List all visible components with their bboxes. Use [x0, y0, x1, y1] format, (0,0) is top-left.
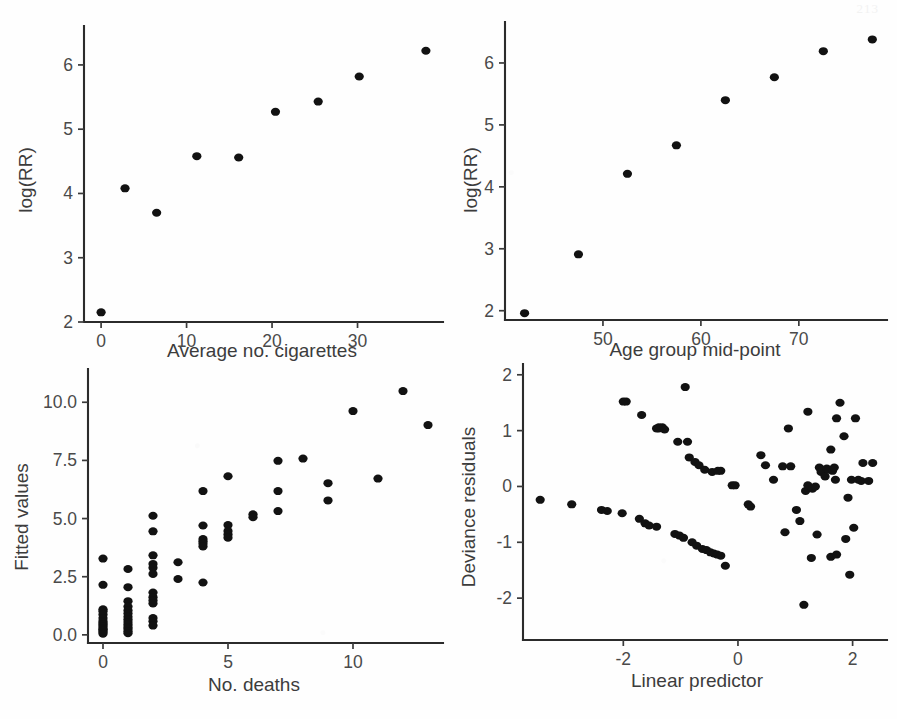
data-point [832, 551, 841, 559]
y-tick-label: 2 [63, 312, 73, 332]
data-point [803, 408, 812, 416]
y-tick-label: 1 [502, 421, 512, 441]
y-tick-label: -1 [496, 532, 512, 552]
data-point [298, 455, 307, 463]
data-point [223, 534, 232, 542]
data-point [148, 551, 157, 559]
data-point [851, 414, 860, 422]
data-point [681, 383, 690, 391]
data-point [778, 462, 787, 470]
data-point [849, 524, 858, 532]
data-point [672, 141, 681, 149]
data-point [248, 513, 257, 521]
data-point [198, 579, 207, 587]
data-point [123, 583, 132, 591]
data-point [756, 451, 765, 459]
data-point [223, 472, 232, 480]
data-point [858, 459, 867, 467]
data-point [619, 398, 628, 406]
y-tick-label: 4 [484, 177, 494, 197]
data-point [831, 476, 840, 484]
data-point [832, 414, 841, 422]
y-tick-label: 5 [63, 119, 73, 139]
data-point [120, 184, 129, 192]
y-tick-label: 6 [63, 55, 73, 75]
data-point [148, 570, 157, 578]
data-point [273, 487, 282, 495]
data-point [769, 476, 778, 484]
data-point [323, 479, 332, 487]
data-point [574, 250, 583, 258]
data-point [314, 98, 323, 106]
y-axis-title: Deviance residuals [458, 427, 479, 588]
data-points [520, 35, 877, 317]
data-point [784, 424, 793, 432]
y-tick-label: 2 [502, 365, 512, 385]
data-point [398, 387, 407, 395]
data-point [713, 467, 722, 475]
scatter-plot-deviance-residuals: -2-1012-202Linear predictorDeviance resi… [447, 357, 897, 719]
data-point [520, 309, 529, 317]
data-point [567, 500, 576, 508]
y-tick-label: 5 [484, 115, 494, 135]
data-point [730, 481, 739, 489]
y-tick-label: -2 [496, 588, 512, 608]
data-points [536, 383, 878, 609]
data-point [173, 575, 182, 583]
data-point [148, 527, 157, 535]
data-point [792, 506, 801, 514]
data-point [148, 512, 157, 520]
data-point [660, 426, 669, 434]
data-point [234, 153, 243, 161]
data-point [857, 477, 866, 485]
data-point [812, 530, 821, 538]
x-tick-label: 0 [733, 649, 743, 669]
data-point [721, 562, 730, 570]
data-point [835, 399, 844, 407]
data-point [623, 170, 632, 178]
data-point [152, 209, 161, 217]
data-point [811, 482, 820, 490]
panel-fitted-vs-deaths: 0.02.55.07.510.00510No. deathsFitted val… [0, 357, 450, 719]
data-point [786, 462, 795, 470]
figure-container: 213 234560102030Average no. cigaretteslo… [0, 0, 897, 719]
data-point [721, 96, 730, 104]
data-point [373, 475, 382, 483]
data-point [868, 35, 877, 43]
x-tick-label: 5 [223, 652, 233, 672]
data-point [683, 438, 692, 446]
x-tick-label: 0 [98, 652, 108, 672]
y-axis-title: Fitted values [11, 463, 32, 571]
x-axis-title: No. deaths [208, 674, 300, 695]
data-point [679, 534, 688, 542]
y-tick-label: 0.0 [53, 625, 78, 645]
data-point [868, 459, 877, 467]
y-tick-label: 6 [484, 53, 494, 73]
data-point [98, 630, 107, 638]
y-axis-title: log(RR) [15, 147, 36, 212]
data-point [192, 152, 201, 160]
data-points [97, 47, 431, 317]
data-point [618, 509, 627, 517]
scatter-plot-fitted-vs-deaths: 0.02.55.07.510.00510No. deathsFitted val… [0, 357, 450, 719]
data-point [273, 457, 282, 465]
data-point [746, 503, 755, 511]
y-tick-label: 0 [502, 476, 512, 496]
data-point [807, 554, 816, 562]
data-point [123, 629, 132, 637]
data-point [198, 487, 207, 495]
x-tick-label: 0 [96, 331, 106, 351]
panel-log-rr-vs-cigarettes: 234560102030Average no. cigaretteslog(RR… [0, 0, 450, 362]
y-tick-label: 3 [484, 239, 494, 259]
data-point [795, 517, 804, 525]
data-point [198, 542, 207, 550]
y-tick-label: 2.5 [53, 567, 77, 587]
y-tick-label: 7.5 [53, 450, 77, 470]
y-tick-label: 3 [63, 248, 73, 268]
data-point [770, 73, 779, 81]
data-point [98, 555, 107, 563]
data-point [536, 496, 545, 504]
data-point [97, 308, 106, 316]
data-point [423, 421, 432, 429]
data-point [826, 446, 835, 454]
